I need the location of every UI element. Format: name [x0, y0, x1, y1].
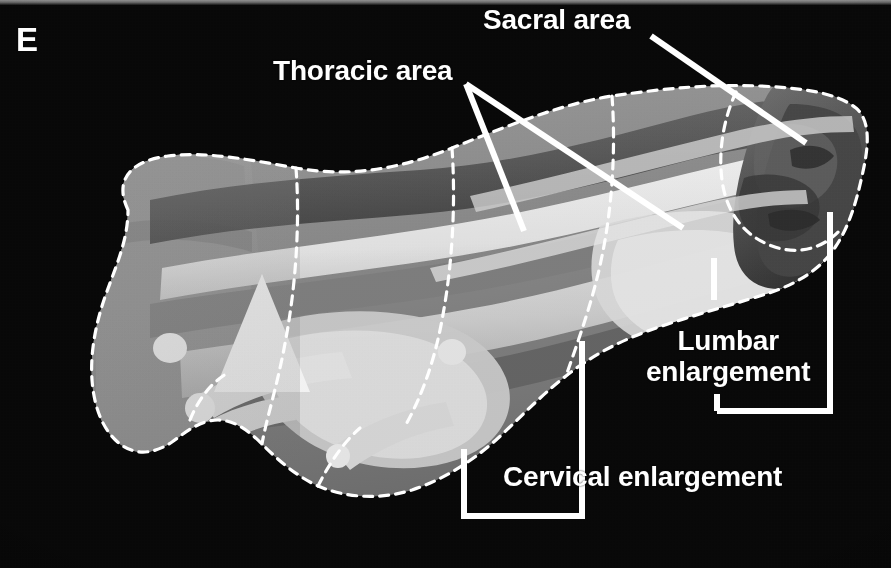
panel-letter: E — [16, 22, 38, 59]
label-sacral-area: Sacral area — [483, 4, 630, 35]
label-lumbar-line2: enlargement — [646, 356, 810, 387]
label-cervical-enlargement: Cervical enlargement — [503, 461, 782, 492]
label-thoracic-area: Thoracic area — [273, 55, 453, 86]
figure-panel-e: E Sacral area Thoracic area Lumbarenlarg… — [0, 0, 891, 568]
label-lumbar-enlargement: Lumbarenlargement — [646, 325, 810, 388]
label-lumbar-line1: Lumbar — [677, 325, 778, 356]
